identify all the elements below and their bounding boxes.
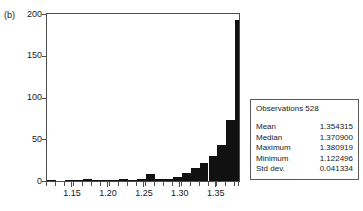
x-axis-tick-label: 1.35 [207,188,225,198]
histogram-bar [128,180,137,181]
statistic-label: Std dev. [256,164,285,175]
y-axis-tick-label: 150 [0,51,42,60]
histogram-bar [173,177,182,181]
histogram-bar [92,180,101,181]
x-axis-minor-tick [136,182,137,186]
y-axis-tick-label: 100 [0,93,42,102]
histogram-bar [110,180,119,181]
histogram-figure: (b) 050100150200 1.151.201.251.301.35 Ob… [0,0,363,211]
x-axis-minor-tick [163,182,164,186]
histogram-bar [47,180,56,181]
x-axis-tick-label: 1.30 [171,188,189,198]
x-axis-minor-tick [118,182,119,186]
x-axis-minor-tick [127,182,128,186]
statistic-label: Maximum [256,143,291,154]
x-axis-minor-tick [181,182,182,186]
x-axis-tick-label: 1.25 [135,188,153,198]
histogram-bar [146,174,155,181]
plot-area [46,13,240,182]
x-axis-minor-tick [199,182,200,186]
histogram-bar [191,168,200,181]
x-axis-tick [215,182,216,187]
histogram-bar [65,180,74,181]
statistic-row: Std dev.0.041334 [256,164,353,175]
x-axis-minor-tick [55,182,56,186]
statistic-row: Median1.370900 [256,133,353,144]
histogram-bar [137,179,146,181]
histogram-bars [47,14,239,181]
statistic-value: 1.370900 [320,133,353,144]
x-axis-minor-tick [216,182,217,186]
x-axis-minor-tick [154,182,155,186]
histogram-bar [164,179,173,182]
histogram-bar [200,163,209,181]
statistic-label: Minimum [256,154,288,165]
observations-count: Observations 528 [256,104,353,114]
statistic-label: Mean [256,122,276,133]
histogram-bar [209,156,218,181]
statistic-row: Maximum1.380919 [256,143,353,154]
y-axis-tick-label: 200 [0,10,42,19]
statistic-value: 0.041334 [320,164,353,175]
statistics-rows: Mean1.354315Median1.370900Maximum1.38091… [256,122,353,175]
x-axis-minor-tick [234,182,235,186]
statistic-row: Mean1.354315 [256,122,353,133]
x-axis-minor-tick [82,182,83,186]
statistics-box: Observations 528 Mean1.354315Median1.370… [250,99,359,180]
x-axis-tick [143,182,144,187]
statistic-row: Minimum1.122496 [256,154,353,165]
x-axis-tick [71,182,72,187]
x-axis-minor-tick [100,182,101,186]
statistic-value: 1.380919 [320,143,353,154]
y-axis-tick-label: 0 [0,177,42,186]
histogram-bar [101,180,110,181]
histogram-bar [217,145,226,181]
y-axis-tick-label: 50 [0,135,42,144]
x-axis-minor-tick [145,182,146,186]
statistic-value: 1.354315 [320,122,353,133]
histogram-bar [182,173,191,181]
x-axis-minor-tick [46,182,47,186]
statistic-value: 1.122496 [320,154,353,165]
x-axis-tick [107,182,108,187]
x-axis-minor-tick [73,182,74,186]
histogram-bar [155,179,164,182]
x-axis-minor-tick [208,182,209,186]
histogram-bar [235,20,239,181]
x-axis-minor-tick [91,182,92,186]
x-axis-minor-tick [225,182,226,186]
x-axis-minor-tick [238,182,239,186]
x-axis-tick [179,182,180,187]
x-axis-minor-tick [190,182,191,186]
histogram-bar [74,180,83,181]
x-axis-minor-tick [64,182,65,186]
x-axis-tick-label: 1.20 [99,188,117,198]
statistic-label: Median [256,133,282,144]
histogram-bar [226,120,235,181]
x-axis-tick-label: 1.15 [63,188,81,198]
y-axis-tick-labels: 050100150200 [0,0,42,211]
x-axis-tick-labels: 1.151.201.251.301.35 [0,188,363,202]
histogram-bar [119,179,128,181]
histogram-bar [83,179,92,182]
x-axis-minor-tick [109,182,110,186]
x-axis-minor-tick [172,182,173,186]
